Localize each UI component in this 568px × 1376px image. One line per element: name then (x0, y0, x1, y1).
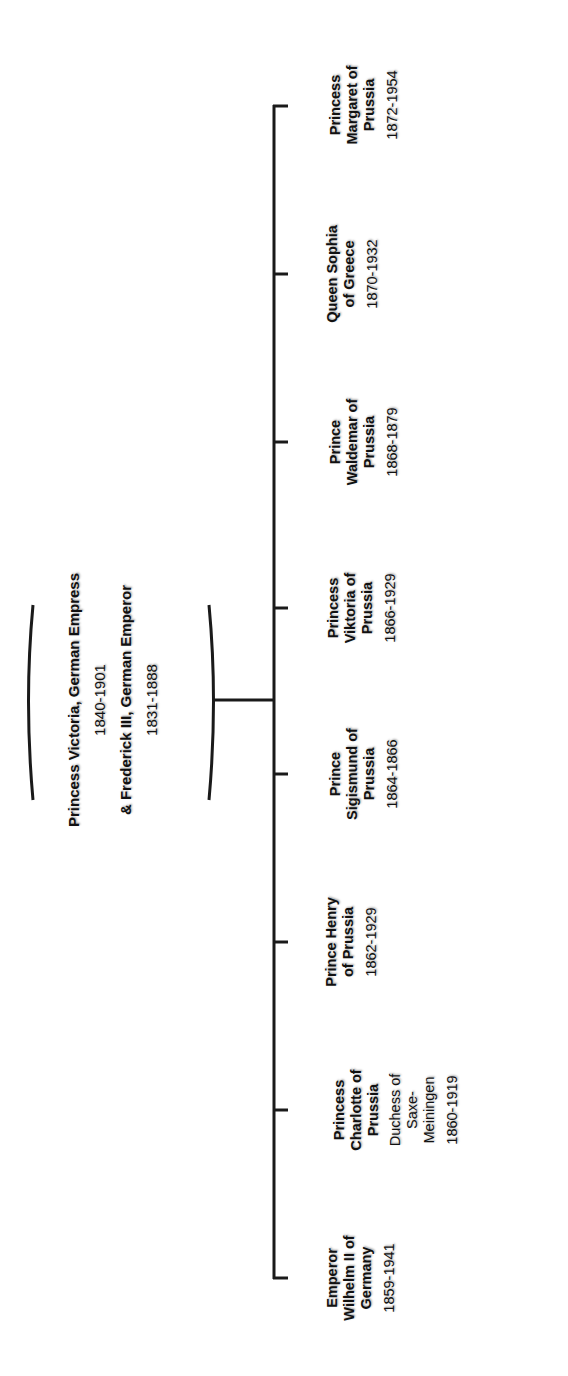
child-node-charlotte: Princess Charlotte of Prussia Duchess of… (331, 1069, 461, 1150)
child-title: Duchess of Saxe- Meiningen (387, 1069, 438, 1150)
child-name: Queen Sophia of Greece (324, 225, 358, 323)
child-name: Prince Waldemar of Prussia (327, 399, 378, 485)
child-dates: 1859-1941 (381, 1235, 398, 1320)
child-node-sophia: Queen Sophia of Greece 1870-1932 (324, 225, 381, 323)
father-dates: 1831-1888 (143, 573, 160, 827)
child-name: Princess Viktoria of Prussia (325, 573, 376, 644)
left-parent-bracket (29, 605, 34, 800)
child-dates: 1862-1929 (363, 897, 380, 986)
child-name: Prince Henry of Prussia (323, 897, 357, 986)
mother-dates: 1840-1901 (91, 573, 108, 827)
child-node-viktoria: Princess Viktoria of Prussia 1866-1929 (325, 573, 399, 644)
father-name: & Frederick III, German Emperor (117, 573, 134, 827)
right-parent-bracket (209, 605, 214, 800)
child-node-margaret: Princess Margaret of Prussia 1872-1954 (327, 66, 401, 145)
child-name: Prince Sigismund of Prussia (327, 728, 378, 820)
child-node-waldemar: Prince Waldemar of Prussia 1868-1879 (327, 399, 401, 485)
child-node-sigismund: Prince Sigismund of Prussia 1864-1866 (327, 728, 401, 820)
child-dates: 1870-1932 (364, 225, 381, 323)
child-dates: 1864-1866 (384, 728, 401, 820)
child-name: Princess Margaret of Prussia (327, 66, 378, 145)
child-name: Emperor Wilhelm II of Germany (324, 1235, 375, 1320)
child-dates: 1868-1879 (384, 399, 401, 485)
child-dates: 1860-1919 (444, 1069, 461, 1150)
child-name: Princess Charlotte of Prussia (331, 1069, 382, 1150)
family-tree-diagram: Princess Victoria, German Empress 1840-1… (0, 0, 568, 1376)
child-dates: 1872-1954 (384, 66, 401, 145)
child-node-wilhelm: Emperor Wilhelm II of Germany 1859-1941 (324, 1235, 398, 1320)
mother-name: Princess Victoria, German Empress (65, 573, 82, 827)
child-node-henry: Prince Henry of Prussia 1862-1929 (323, 897, 380, 986)
child-dates: 1866-1929 (382, 573, 399, 644)
parents-node: Princess Victoria, German Empress 1840-1… (65, 573, 169, 827)
